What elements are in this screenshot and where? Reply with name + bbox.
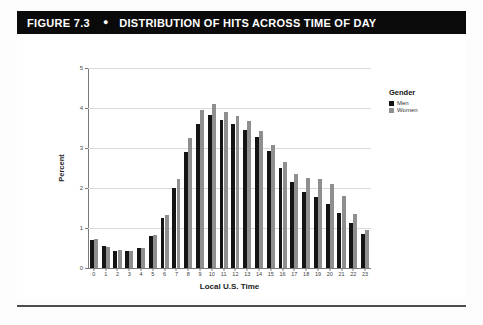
- legend-item-women[interactable]: Women: [389, 107, 459, 113]
- bottom-divider: [17, 305, 466, 307]
- x-tick-label: 20: [327, 271, 333, 277]
- bar-women-9: [200, 110, 204, 268]
- x-tick-label: 7: [175, 271, 178, 277]
- bar-group: [300, 68, 312, 268]
- figure-number-label: FIGURE 7.3: [27, 17, 90, 29]
- x-tick-label: 11: [221, 271, 227, 277]
- x-tick-label: 19: [315, 271, 321, 277]
- bar-group: [312, 68, 324, 268]
- x-tick-label: 3: [128, 271, 131, 277]
- bar-women-17: [294, 174, 298, 268]
- bar-group: [218, 68, 230, 268]
- bullet-separator-icon: ●: [103, 18, 108, 27]
- bar-group: [194, 68, 206, 268]
- bar-group: [230, 68, 242, 268]
- bar-women-6: [165, 215, 169, 268]
- x-tick-label: 10: [209, 271, 215, 277]
- bar-group: [277, 68, 289, 268]
- legend-title: Gender: [389, 88, 459, 97]
- bar-women-23: [365, 230, 369, 268]
- bar-group: [100, 68, 112, 268]
- bar-group: [147, 68, 159, 268]
- bar-group: [324, 68, 336, 268]
- x-tick-label: 15: [268, 271, 274, 277]
- legend-swatch-men: [389, 101, 394, 106]
- bar-women-20: [330, 184, 334, 268]
- x-tick-label: 9: [198, 271, 201, 277]
- y-tick-label: 0: [80, 265, 83, 271]
- legend-label-men: Men: [397, 100, 409, 106]
- bar-group: [288, 68, 300, 268]
- bar-group: [171, 68, 183, 268]
- legend: Gender MenWomen: [389, 88, 459, 114]
- bar-women-13: [247, 121, 251, 268]
- y-tick-label: 5: [80, 65, 83, 71]
- bar-group: [135, 68, 147, 268]
- bar-women-15: [271, 145, 275, 268]
- chart-canvas: 012345 012345678910111213141516171819202…: [17, 40, 466, 298]
- figure-header-bar: FIGURE 7.3 ● DISTRIBUTION OF HITS ACROSS…: [17, 11, 466, 34]
- bar-group: [159, 68, 171, 268]
- x-tick-label: 6: [163, 271, 166, 277]
- y-axis-title: Percent: [57, 154, 66, 182]
- bar-women-18: [306, 178, 310, 268]
- x-axis-title: Local U.S. Time: [88, 282, 371, 291]
- bar-women-22: [353, 214, 357, 268]
- x-tick-label: 4: [140, 271, 143, 277]
- bar-women-3: [129, 251, 133, 268]
- x-tick-label: 22: [350, 271, 356, 277]
- y-tick-mark: [85, 268, 88, 269]
- y-tick-label: 4: [80, 105, 83, 111]
- figure-title: DISTRIBUTION OF HITS ACROSS TIME OF DAY: [119, 17, 376, 29]
- y-tick-label: 3: [80, 145, 83, 151]
- bar-group: [347, 68, 359, 268]
- bar-women-11: [224, 112, 228, 268]
- bar-women-12: [236, 116, 240, 268]
- bar-group: [336, 68, 348, 268]
- legend-items: MenWomen: [389, 100, 459, 113]
- bar-group: [182, 68, 194, 268]
- x-tick-label: 12: [232, 271, 238, 277]
- x-tick-label: 16: [280, 271, 286, 277]
- bars-layer: [88, 68, 371, 268]
- bar-group: [123, 68, 135, 268]
- bar-women-19: [318, 179, 322, 268]
- bar-women-2: [118, 250, 122, 268]
- x-tick-label: 17: [291, 271, 297, 277]
- x-tick-label: 0: [92, 271, 95, 277]
- x-tick-label: 21: [338, 271, 344, 277]
- x-tick-label: 2: [116, 271, 119, 277]
- bar-group: [206, 68, 218, 268]
- bar-group: [253, 68, 265, 268]
- x-tick-label: 14: [256, 271, 262, 277]
- bar-group: [112, 68, 124, 268]
- x-tick-label: 18: [303, 271, 309, 277]
- bar-group: [241, 68, 253, 268]
- bar-women-4: [141, 248, 145, 268]
- x-tick-label: 5: [151, 271, 154, 277]
- legend-item-men[interactable]: Men: [389, 100, 459, 106]
- legend-swatch-women: [389, 108, 394, 113]
- bar-women-21: [342, 196, 346, 268]
- legend-label-women: Women: [397, 107, 418, 113]
- bar-women-14: [259, 131, 263, 268]
- y-tick-label: 2: [80, 185, 83, 191]
- bar-women-10: [212, 104, 216, 268]
- bar-group: [359, 68, 371, 268]
- bar-women-5: [153, 235, 157, 268]
- bar-women-7: [177, 179, 181, 268]
- x-tick-label: 8: [187, 271, 190, 277]
- x-tick-label: 13: [244, 271, 250, 277]
- x-tick-label: 1: [104, 271, 107, 277]
- bar-women-1: [106, 247, 110, 268]
- y-tick-label: 1: [80, 225, 83, 231]
- bar-group: [88, 68, 100, 268]
- bar-women-16: [283, 162, 287, 268]
- bar-group: [265, 68, 277, 268]
- x-tick-label: 23: [362, 271, 368, 277]
- plot-area: 012345 012345678910111213141516171819202…: [88, 68, 371, 268]
- bar-women-0: [94, 239, 98, 268]
- bar-women-8: [188, 138, 192, 268]
